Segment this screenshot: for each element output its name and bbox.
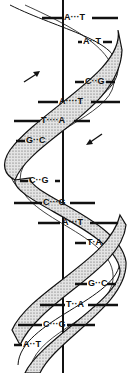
base-pair: C···G <box>43 198 66 207</box>
base-pair: A··T <box>83 37 101 46</box>
base-pair: C··G <box>29 176 49 185</box>
base-pair: A···T <box>64 13 85 22</box>
base-pair: T·A <box>87 238 102 247</box>
base-pair: G··C <box>88 279 108 288</box>
arrow-up-right-icon <box>24 71 40 82</box>
base-pair: T····A <box>41 116 65 125</box>
base-pair: C··G <box>85 77 105 86</box>
base-pair: G··C <box>26 136 46 145</box>
base-pair: A····T <box>59 97 83 106</box>
base-pair: C···G <box>43 320 66 329</box>
dna-helix-drawing <box>0 0 130 373</box>
base-pair: A··T <box>23 340 41 349</box>
base-pair: A···T <box>62 218 83 227</box>
base-pair: T··A <box>66 300 84 309</box>
arrow-down-left-icon <box>86 134 102 145</box>
